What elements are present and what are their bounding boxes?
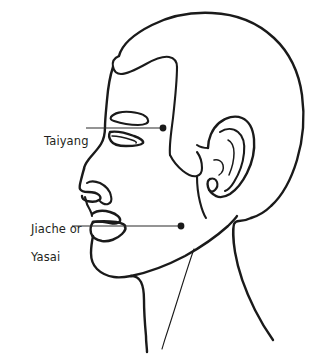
nose-bridge-and-tip <box>80 169 101 202</box>
nape-and-back-neck <box>233 218 273 340</box>
head-profile-illustration <box>0 0 334 354</box>
acupressure-head-diagram: Taiyang Jiache or Yasai <box>0 0 334 354</box>
label-taiyang-line1: Taiyang <box>44 134 89 148</box>
ear-crus <box>228 140 234 175</box>
neck-front <box>131 276 147 352</box>
chin-profile <box>91 236 131 277</box>
acupoint-dot-taiyang <box>160 125 167 132</box>
temple-cheek-contour <box>170 152 202 176</box>
philtrum <box>85 197 92 216</box>
label-jiache: Jiache or Yasai <box>16 208 82 278</box>
lower-lip <box>91 222 126 241</box>
label-taiyang: Taiyang <box>29 120 89 162</box>
ear-concha <box>214 160 223 175</box>
acupoint-markers-group <box>160 125 185 230</box>
skull-outline <box>119 13 303 218</box>
preauricular-contour <box>197 176 206 218</box>
label-jiache-line1: Jiache or <box>31 222 82 236</box>
eye-inner-line <box>112 136 136 143</box>
ear-lobe <box>208 179 216 196</box>
hairline <box>113 56 177 155</box>
eyebrow <box>111 112 149 125</box>
label-jiache-line2: Yasai <box>31 250 60 264</box>
acupoint-dot-jiache <box>178 223 185 230</box>
ear-front-attachment <box>197 145 208 148</box>
